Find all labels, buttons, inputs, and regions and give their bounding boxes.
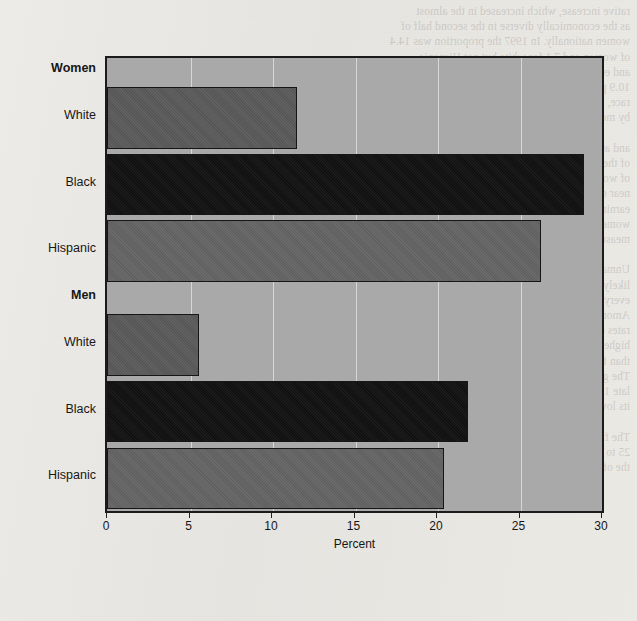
group-label-women: Women: [4, 62, 96, 75]
x-tick: [189, 513, 190, 518]
group-label-men: Men: [4, 289, 96, 302]
x-tick: [106, 513, 107, 518]
x-tick-label: 10: [264, 519, 277, 533]
x-tick: [271, 513, 272, 518]
x-tick-label: 25: [512, 519, 525, 533]
x-tick: [436, 513, 437, 518]
plot-area: [105, 56, 604, 513]
category-label-white: White: [4, 109, 96, 122]
bar-row: [107, 87, 602, 148]
x-tick-label: 15: [347, 519, 360, 533]
x-tick-label: 5: [185, 519, 192, 533]
category-label-hispanic: Hispanic: [4, 469, 96, 482]
bar-black: [107, 154, 584, 215]
category-label-black: Black: [4, 403, 96, 416]
bar-hispanic: [107, 220, 541, 281]
x-axis-title: Percent: [105, 537, 604, 551]
bar-black: [107, 381, 468, 442]
bar-row: [107, 154, 602, 215]
category-label-hispanic: Hispanic: [4, 242, 96, 255]
bar-white: [107, 87, 297, 148]
x-tick-label: 30: [594, 519, 607, 533]
bar-row: [107, 381, 602, 442]
x-tick: [354, 513, 355, 518]
bar-white: [107, 314, 199, 375]
bar-hispanic: [107, 448, 444, 509]
bar-row: [107, 448, 602, 509]
category-label-white: White: [4, 336, 96, 349]
x-tick-label: 20: [429, 519, 442, 533]
bar-row: [107, 314, 602, 375]
x-tick-label: 0: [103, 519, 110, 533]
x-tick: [519, 513, 520, 518]
x-tick: [601, 513, 602, 518]
x-axis: 051015202530 Percent: [105, 513, 604, 553]
category-label-black: Black: [4, 176, 96, 189]
bar-row: [107, 220, 602, 281]
bar-chart-figure: WomenWhiteBlackHispanicMenWhiteBlackHisp…: [0, 0, 637, 621]
